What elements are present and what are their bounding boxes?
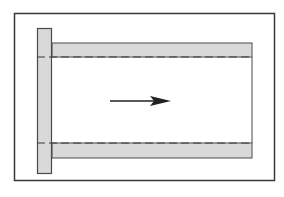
flow-arrow-icon — [110, 96, 171, 106]
flange-plate — [38, 29, 52, 174]
top-wall — [52, 43, 252, 57]
bottom-wall — [52, 143, 252, 158]
diagram-canvas — [0, 0, 284, 197]
